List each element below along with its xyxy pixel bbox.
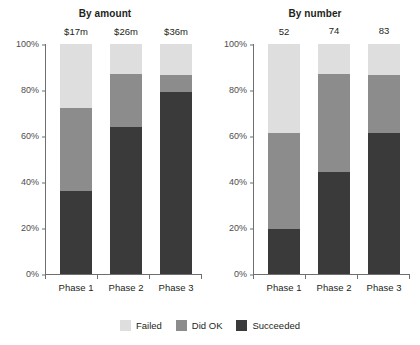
legend-label-did-ok: Did OK [192,321,223,331]
legend-swatch-did-ok [176,320,187,331]
segment-failed [160,44,192,75]
plot-area-by-amount: 0% 20% 40% 60% 80% 100% $17m $26m $36m [46,44,198,274]
bar-value-label: $17m [64,27,88,37]
chart-legend: Failed Did OK Succeeded [0,320,420,331]
legend-swatch-failed [120,320,131,331]
x-label-phase-3: Phase 3 [367,283,402,293]
x-tick-mark [253,274,254,279]
bar-phase-3[interactable]: $36m [160,44,192,274]
x-axis-line [45,274,201,275]
y-tick-100: 100% [224,40,254,49]
y-tick-20: 20% [229,224,254,233]
bar-value-label: 52 [279,27,290,37]
x-tick-mark [97,274,98,279]
legend-label-succeeded: Succeeded [252,321,300,331]
y-tick-100: 100% [16,40,46,49]
x-label-phase-2: Phase 2 [109,283,144,293]
bar-phase-1[interactable]: 52 [268,44,300,274]
segment-succeeded [368,133,400,275]
segment-did-ok [368,75,400,133]
x-tick-mark [149,274,150,279]
x-label-phase-1: Phase 1 [267,283,302,293]
x-label-phase-1: Phase 1 [59,283,94,293]
x-tick-mark [305,274,306,279]
x-tick-mark [409,274,410,279]
y-tick-40: 40% [21,178,46,187]
segment-succeeded [160,92,192,274]
segment-succeeded [318,172,350,274]
y-tick-20: 20% [21,224,46,233]
segment-failed [60,44,92,108]
legend-swatch-succeeded [236,320,247,331]
legend-item-succeeded[interactable]: Succeeded [236,320,300,331]
segment-did-ok [110,74,142,127]
segment-failed [368,44,400,75]
x-axis-line [253,274,409,275]
legend-item-failed[interactable]: Failed [120,320,162,331]
bar-phase-2[interactable]: $26m [110,44,142,274]
bar-value-label: 74 [329,26,340,36]
y-tick-80: 80% [229,86,254,95]
segment-succeeded [268,229,300,274]
segment-did-ok [318,74,350,172]
x-label-phase-2: Phase 2 [317,283,352,293]
x-tick-mark [357,274,358,279]
y-axis-line [45,44,46,275]
bar-value-label: 83 [379,26,390,36]
legend-label-failed: Failed [136,321,162,331]
bar-phase-3[interactable]: 83 [368,44,400,274]
segment-did-ok [268,133,300,230]
plot-area-by-number: 0% 20% 40% 60% 80% 100% 52 74 83 [254,44,406,274]
segment-did-ok [160,75,192,92]
bar-phase-2[interactable]: 74 [318,44,350,274]
bar-phase-1[interactable]: $17m [60,44,92,274]
x-tick-mark [45,274,46,279]
bar-value-label: $36m [164,27,188,37]
segment-failed [268,44,300,133]
x-tick-mark [201,274,202,279]
segment-failed [318,44,350,74]
panel-by-amount: By amount 0% 20% 40% 60% 80% 100% $17m $… [0,0,210,300]
panel-title: By number [210,8,420,19]
y-tick-80: 80% [21,86,46,95]
legend-item-did-ok[interactable]: Did OK [176,320,223,331]
bar-value-label: $26m [114,27,138,37]
y-tick-60: 60% [229,132,254,141]
y-tick-60: 60% [21,132,46,141]
y-axis-line [253,44,254,275]
segment-did-ok [60,108,92,191]
segment-succeeded [110,127,142,274]
segment-failed [110,44,142,74]
chart-panels: By amount 0% 20% 40% 60% 80% 100% $17m $… [0,0,420,300]
y-tick-40: 40% [229,178,254,187]
y-tick-0: 0% [26,270,46,279]
segment-succeeded [60,191,92,274]
y-tick-0: 0% [234,270,254,279]
panel-by-number: By number 0% 20% 40% 60% 80% 100% 52 74 [210,0,420,300]
x-label-phase-3: Phase 3 [159,283,194,293]
panel-title: By amount [0,8,210,19]
